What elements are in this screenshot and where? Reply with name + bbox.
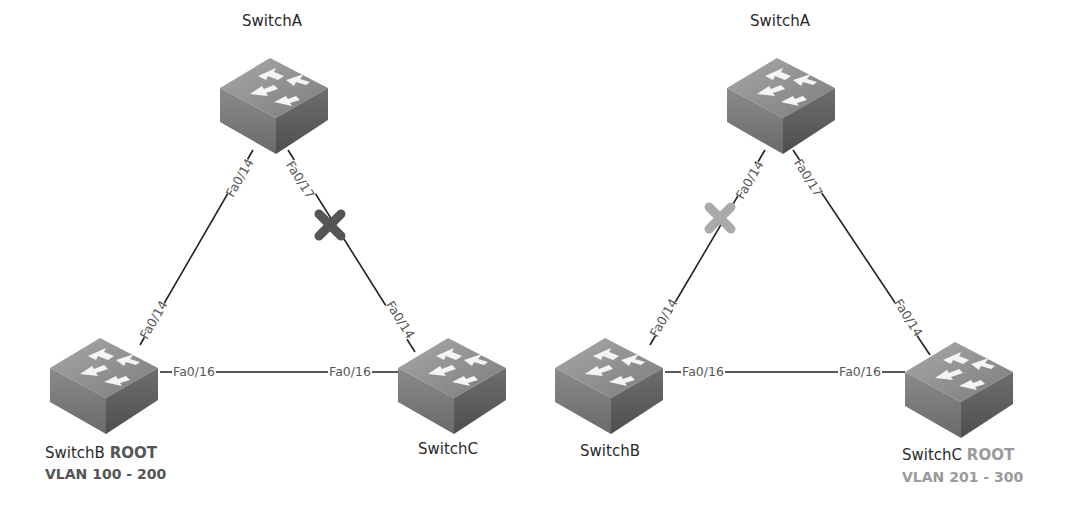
- stp-topology-diagram: Fa0/14 Fa0/14 Fa0/17 Fa0/14 Fa0/16 Fa0/1…: [0, 0, 1065, 508]
- diagram-left: Fa0/14 Fa0/14 Fa0/17 Fa0/14 Fa0/16 Fa0/1…: [45, 12, 506, 482]
- port-label-b-fa016: Fa0/16: [681, 364, 725, 379]
- port-label-b-fa014: Fa0/14: [647, 296, 681, 340]
- switch-a-label: SwitchA: [750, 12, 811, 30]
- svg-text:Fa0/14: Fa0/14: [383, 298, 418, 341]
- svg-text:Fa0/14: Fa0/14: [647, 296, 681, 340]
- diagram-right: Fa0/14 Fa0/14 Fa0/17 Fa0/14 Fa0/16 Fa0/1…: [555, 12, 1023, 485]
- port-label-a-fa017: Fa0/17: [283, 158, 318, 201]
- port-label-c-fa016: Fa0/16: [838, 364, 882, 379]
- svg-text:Fa0/16: Fa0/16: [839, 364, 881, 379]
- port-label-c-fa016: Fa0/16: [328, 364, 372, 379]
- switch-b-icon: [555, 338, 663, 434]
- svg-text:Fa0/14: Fa0/14: [891, 296, 926, 339]
- switch-b-label: SwitchB: [580, 442, 640, 460]
- svg-text:Fa0/16: Fa0/16: [329, 364, 371, 379]
- port-label-a-fa014: Fa0/14: [223, 156, 257, 200]
- svg-text:Fa0/14: Fa0/14: [137, 298, 171, 342]
- port-label-a-fa014: Fa0/14: [733, 158, 767, 202]
- root-vlan-range: VLAN 201 - 300: [902, 469, 1023, 485]
- svg-text:Fa0/14: Fa0/14: [733, 158, 767, 202]
- svg-text:Fa0/16: Fa0/16: [682, 364, 724, 379]
- switch-a-icon: [727, 58, 835, 154]
- svg-text:Fa0/14: Fa0/14: [223, 156, 257, 200]
- switch-b-icon: [50, 338, 158, 434]
- switch-c-label: SwitchC: [418, 440, 478, 458]
- root-vlan-range: VLAN 100 - 200: [45, 466, 166, 482]
- switch-b-label: SwitchB ROOT: [45, 444, 158, 462]
- svg-text:Fa0/17: Fa0/17: [791, 156, 826, 199]
- switch-a-icon: [220, 58, 328, 154]
- switch-c-icon: [905, 342, 1013, 438]
- switch-a-label: SwitchA: [242, 12, 303, 30]
- root-tag: ROOT: [967, 446, 1015, 464]
- port-label-c-fa014: Fa0/14: [891, 296, 926, 339]
- port-label-a-fa017: Fa0/17: [791, 156, 826, 199]
- svg-text:Fa0/16: Fa0/16: [173, 364, 215, 379]
- root-tag: ROOT: [110, 444, 158, 462]
- svg-text:Fa0/17: Fa0/17: [283, 158, 318, 201]
- port-label-c-fa014: Fa0/14: [383, 298, 418, 341]
- port-label-b-fa016: Fa0/16: [172, 364, 216, 379]
- switch-c-label: SwitchC ROOT: [902, 446, 1015, 464]
- switch-c-icon: [398, 338, 506, 434]
- port-label-b-fa014: Fa0/14: [137, 298, 171, 342]
